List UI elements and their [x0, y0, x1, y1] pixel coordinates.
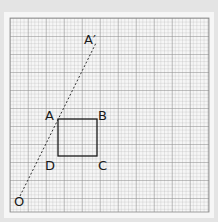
- label-c: C: [98, 159, 107, 172]
- label-a-prime: A′: [84, 33, 96, 46]
- grid-diagram: [0, 0, 218, 222]
- label-a: A: [45, 109, 54, 122]
- grid: [10, 18, 209, 212]
- label-b: B: [98, 109, 107, 122]
- label-d: D: [45, 159, 55, 172]
- label-o: O: [14, 195, 24, 208]
